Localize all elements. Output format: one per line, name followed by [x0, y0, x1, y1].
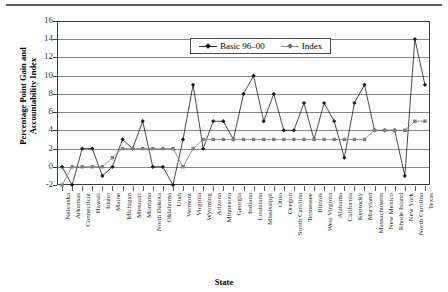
data-point-marker	[362, 83, 366, 87]
data-point-marker	[403, 174, 407, 178]
data-point-marker	[201, 146, 205, 150]
data-point-marker	[121, 147, 124, 150]
data-point-marker	[181, 137, 185, 141]
data-point-marker	[141, 147, 144, 150]
data-point-marker	[91, 165, 94, 168]
data-point-marker	[251, 74, 255, 78]
data-point-marker	[393, 129, 396, 132]
data-point-marker	[242, 138, 245, 141]
data-point-marker	[423, 83, 427, 87]
data-point-marker	[252, 138, 255, 141]
data-point-marker	[302, 101, 306, 105]
data-point-marker	[272, 138, 275, 141]
data-point-marker	[423, 120, 426, 123]
data-point-marker	[101, 165, 104, 168]
series-line	[62, 39, 425, 185]
data-point-marker	[161, 165, 165, 169]
series-basic	[60, 37, 427, 187]
data-point-marker	[282, 138, 285, 141]
data-point-marker	[333, 138, 336, 141]
data-point-marker	[171, 183, 175, 187]
data-point-marker	[322, 101, 326, 105]
data-point-marker	[171, 147, 174, 150]
data-point-marker	[241, 92, 245, 96]
data-point-marker	[191, 147, 194, 150]
chart-figure: Percentage Point Gain and Accountability…	[0, 0, 448, 292]
data-point-marker	[262, 119, 266, 123]
data-point-marker	[353, 138, 356, 141]
data-point-marker	[212, 138, 215, 141]
data-point-marker	[383, 129, 386, 132]
data-point-marker	[131, 147, 134, 150]
data-point-marker	[81, 165, 84, 168]
series-index	[60, 120, 426, 187]
data-point-marker	[272, 92, 276, 96]
data-point-marker	[80, 146, 84, 150]
data-point-marker	[151, 165, 155, 169]
data-point-marker	[221, 119, 225, 123]
data-point-marker	[373, 129, 376, 132]
data-point-marker	[343, 138, 346, 141]
data-point-marker	[322, 138, 325, 141]
data-point-marker	[292, 128, 296, 132]
data-point-marker	[312, 138, 315, 141]
data-point-marker	[232, 138, 235, 141]
data-point-marker	[151, 147, 154, 150]
data-point-marker	[302, 138, 305, 141]
data-point-marker	[363, 138, 366, 141]
data-point-marker	[211, 119, 215, 123]
data-point-marker	[141, 119, 145, 123]
series-line	[62, 121, 425, 185]
data-point-marker	[342, 156, 346, 160]
data-point-marker	[181, 165, 184, 168]
data-point-marker	[282, 128, 286, 132]
data-point-marker	[332, 119, 336, 123]
data-point-marker	[262, 138, 265, 141]
data-point-marker	[70, 165, 73, 168]
data-point-marker	[403, 129, 406, 132]
data-point-marker	[111, 156, 114, 159]
data-point-marker	[413, 37, 417, 41]
data-point-marker	[161, 147, 164, 150]
data-point-marker	[201, 138, 204, 141]
series-layer	[0, 0, 448, 292]
data-point-marker	[60, 165, 64, 169]
data-point-marker	[413, 120, 416, 123]
data-point-marker	[60, 183, 63, 186]
data-point-marker	[292, 138, 295, 141]
data-point-marker	[191, 83, 195, 87]
data-point-marker	[352, 101, 356, 105]
data-point-marker	[222, 138, 225, 141]
data-point-marker	[70, 183, 74, 187]
data-point-marker	[90, 146, 94, 150]
